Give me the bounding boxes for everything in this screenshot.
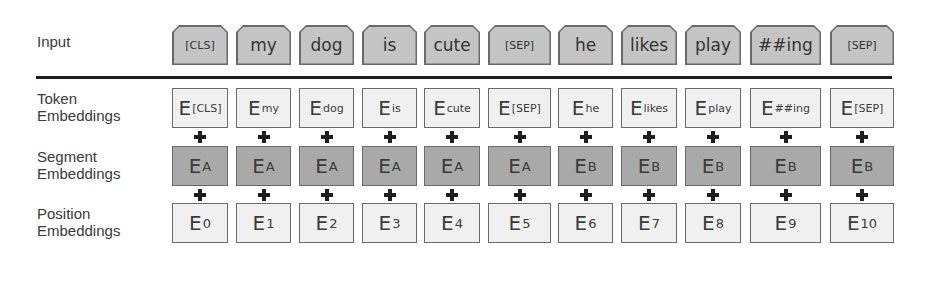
token-embedding-box: Edog (299, 88, 354, 128)
embedding-letter: E (775, 211, 788, 235)
embedding-subscript: 8 (716, 216, 724, 231)
token-embedding-box: E[SEP] (830, 88, 894, 128)
plus-icon (194, 189, 206, 201)
position-label-line2: Embeddings (37, 222, 120, 239)
embedding-subscript: A (454, 159, 463, 174)
token-embedding-box: Ecute (424, 88, 480, 128)
input-token-tab: dog (299, 25, 354, 65)
plus-icon (321, 189, 333, 201)
plus-icon (707, 189, 719, 201)
embedding-letter: E (378, 154, 391, 178)
input-label: Input (37, 33, 70, 50)
plus-icon (258, 131, 270, 143)
embedding-letter: E (248, 96, 261, 120)
token-label-line2: Embeddings (37, 107, 120, 124)
plus-icon (643, 131, 655, 143)
embedding-subscript: [SEP] (512, 102, 541, 115)
plus-icon (643, 189, 655, 201)
embedding-letter: E (574, 154, 587, 178)
embedding-letter: E (508, 154, 521, 178)
embedding-letter: E (761, 96, 774, 120)
plus-icon (780, 189, 792, 201)
embedding-subscript: A (329, 159, 338, 174)
plus-icon (514, 131, 526, 143)
row-label-token-embeddings: Token Embeddings (37, 90, 120, 124)
input-token-label: [CLS] (174, 27, 227, 64)
embedding-letter: E (189, 211, 202, 235)
plus-icon (258, 189, 270, 201)
token-embedding-box: Eis (362, 88, 417, 128)
segment-embedding-box: EB (558, 146, 613, 186)
token-embedding-box: Eplay (685, 88, 741, 128)
segment-embedding-box: EA (488, 146, 551, 186)
segment-embedding-box: EB (621, 146, 677, 186)
embedding-letter: E (441, 154, 454, 178)
segment-label-line1: Segment (37, 148, 120, 165)
divider-line (36, 76, 892, 79)
embedding-letter: E (630, 96, 643, 120)
plus-icon (384, 189, 396, 201)
input-token-label: he (560, 27, 612, 64)
embedding-letter: E (189, 154, 202, 178)
segment-embedding-box: EB (685, 146, 741, 186)
position-embedding-box: E1 (236, 203, 291, 243)
embedding-letter: E (509, 211, 522, 235)
row-label-position-embeddings: Position Embeddings (37, 205, 120, 239)
segment-embedding-box: EA (299, 146, 354, 186)
token-embedding-box: E##ing (750, 88, 821, 128)
embedding-subscript: play (708, 102, 731, 115)
embedding-subscript: [CLS] (192, 102, 221, 115)
position-embedding-box: E10 (830, 203, 894, 243)
plus-icon (194, 131, 206, 143)
position-embedding-box: E0 (172, 203, 228, 243)
position-embedding-box: E7 (621, 203, 677, 243)
plus-icon (384, 131, 396, 143)
embedding-subscript: 5 (522, 216, 530, 231)
embedding-subscript: A (266, 159, 275, 174)
embedding-subscript: my (262, 102, 279, 115)
embedding-letter: E (572, 96, 585, 120)
embedding-letter: E (638, 154, 651, 178)
embedding-subscript: likes (644, 102, 669, 115)
embedding-letter: E (851, 154, 864, 178)
embedding-subscript: dog (323, 102, 344, 115)
embedding-letter: E (695, 96, 708, 120)
embedding-subscript: 1 (266, 216, 274, 231)
plus-icon (580, 189, 592, 201)
embedding-subscript: 4 (455, 216, 463, 231)
input-token-label: ##ing (752, 27, 820, 64)
embedding-letter: E (316, 211, 329, 235)
input-token-tab: [CLS] (172, 25, 228, 65)
embedding-subscript: 0 (203, 216, 211, 231)
plus-icon (321, 131, 333, 143)
token-embedding-box: E[SEP] (488, 88, 551, 128)
input-token-label: likes (623, 27, 676, 64)
input-token-label: is (364, 27, 416, 64)
embedding-letter: E (575, 211, 588, 235)
segment-label-line2: Embeddings (37, 165, 120, 182)
embedding-subscript: 3 (392, 216, 400, 231)
position-embedding-box: E4 (424, 203, 480, 243)
token-embedding-box: Emy (236, 88, 291, 128)
plus-icon (446, 189, 458, 201)
embedding-letter: E (841, 96, 854, 120)
embedding-subscript: cute (447, 102, 471, 115)
input-token-label: dog (301, 27, 353, 64)
input-token-tab: is (362, 25, 417, 65)
embedding-subscript: ##ing (775, 102, 810, 115)
embedding-subscript: B (588, 159, 597, 174)
embedding-subscript: 9 (788, 216, 796, 231)
token-embedding-box: E[CLS] (172, 88, 228, 128)
input-token-tab: play (685, 25, 741, 65)
segment-embedding-box: EA (424, 146, 480, 186)
position-embedding-box: E9 (750, 203, 821, 243)
plus-icon (446, 131, 458, 143)
embedding-letter: E (252, 154, 265, 178)
plus-icon (856, 189, 868, 201)
position-embedding-box: E6 (558, 203, 613, 243)
embedding-letter: E (253, 211, 266, 235)
input-token-tab: [SEP] (830, 25, 894, 65)
embedding-letter: E (498, 96, 511, 120)
embedding-subscript: B (651, 159, 660, 174)
token-label-line1: Token (37, 90, 120, 107)
